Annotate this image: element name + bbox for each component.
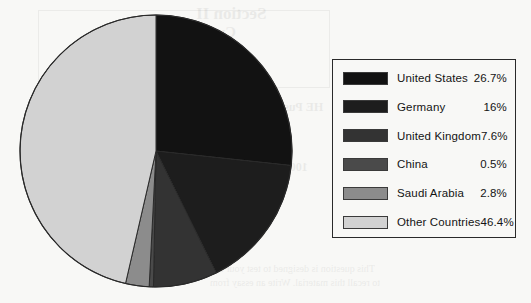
legend-swatch-united-states bbox=[343, 72, 388, 85]
legend-label: Other Countries bbox=[397, 216, 480, 228]
legend-item: Other Countries46.4% bbox=[343, 211, 507, 233]
legend-label: China bbox=[397, 158, 480, 170]
legend-value: 2.8% bbox=[480, 187, 507, 199]
legend-item: China0.5% bbox=[343, 153, 507, 175]
legend-label: Saudi Arabia bbox=[397, 187, 480, 199]
legend-value: 16% bbox=[484, 101, 507, 113]
legend-swatch-saudi-arabia bbox=[343, 187, 388, 200]
legend-swatch-united-kingdom bbox=[343, 129, 388, 142]
legend-label: Germany bbox=[397, 101, 484, 113]
chart-legend: United States26.7%Germany16%United Kingd… bbox=[332, 59, 516, 238]
legend-value: 7.6% bbox=[481, 130, 508, 142]
legend-value: 46.4% bbox=[480, 216, 513, 228]
legend-value: 26.7% bbox=[474, 72, 507, 84]
legend-item: Saudi Arabia2.8% bbox=[343, 182, 507, 204]
legend-item: United States26.7% bbox=[343, 67, 507, 89]
legend-value: 0.5% bbox=[480, 158, 507, 170]
pie-chart bbox=[19, 14, 293, 288]
legend-swatch-germany bbox=[343, 100, 388, 113]
legend-swatch-other-countries bbox=[343, 216, 388, 229]
pie-chart-svg bbox=[19, 14, 293, 288]
legend-label: United States bbox=[397, 72, 474, 84]
legend-swatch-china bbox=[343, 158, 388, 171]
chart-canvas: Section IICurrent BasetionHE Pushing For… bbox=[0, 0, 531, 303]
legend-label: United Kingdom bbox=[397, 130, 481, 142]
legend-item: United Kingdom7.6% bbox=[343, 125, 507, 147]
pie-slice bbox=[156, 15, 292, 166]
legend-item: Germany16% bbox=[343, 96, 507, 118]
